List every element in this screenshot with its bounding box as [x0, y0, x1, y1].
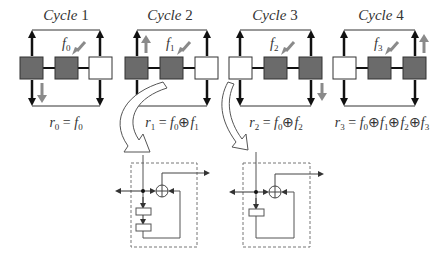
dashed-boundary	[243, 163, 310, 247]
formula-r3: r3 = f0⊕f1⊕f2⊕f3	[335, 115, 430, 132]
formula-r1: r1 = f0⊕f1	[145, 115, 199, 132]
input-label: f1	[166, 36, 174, 53]
two-register-xor-circuit	[118, 155, 207, 247]
register-box-white	[333, 57, 356, 79]
one-register-xor-circuit	[232, 152, 321, 247]
input-label: f0	[62, 36, 71, 53]
cycle-3-title: Cycle 3	[252, 7, 297, 23]
cycle-2: Cycle 2 f1 r1 = f0⊕f1	[125, 7, 218, 132]
register-box-dark	[368, 57, 391, 79]
register-2	[136, 224, 151, 231]
register-box-dark	[299, 57, 322, 79]
shift-arrowhead-icon	[317, 93, 327, 101]
register-1	[136, 208, 151, 215]
cycle-1: Cycle 1 f0 r0 = f0	[20, 7, 112, 132]
cycle-3: Cycle 3 f2 r2 = f0⊕f2	[229, 7, 327, 132]
cycle-4-title: Cycle 4	[358, 7, 404, 23]
junction-dot	[141, 189, 145, 193]
register-box-dark	[264, 57, 287, 79]
cycle-2-title: Cycle 2	[147, 7, 192, 23]
formula-r0: r0 = f0	[49, 115, 83, 132]
dashed-boundary	[131, 163, 197, 247]
shift-arrowhead-icon	[141, 35, 151, 43]
curved-arrow-icon-2	[222, 82, 248, 150]
register-box-dark	[125, 57, 148, 79]
formula-r2: r2 = f0⊕f2	[249, 115, 303, 132]
shift-arrowhead-icon	[37, 95, 47, 103]
input-label: f2	[270, 36, 278, 53]
register-box-dark	[20, 57, 43, 79]
register-box-white	[89, 57, 112, 79]
xor-output-arrow-icon	[162, 173, 207, 185]
xor-cycle-diagram: Cycle 1 f0 r0 = f0 Cycle 2	[0, 0, 448, 265]
register-box-dark	[55, 57, 78, 79]
register-box-dark	[403, 57, 426, 79]
register-box-white	[195, 57, 218, 79]
register-1	[249, 209, 264, 216]
cycle-4: Cycle 4 f3 r3 = f0⊕f1⊕f2⊕f3	[333, 7, 430, 132]
input-label: f3	[374, 36, 383, 53]
junction-dot	[254, 190, 258, 194]
shift-arrowhead-icon	[419, 34, 429, 42]
register-box-dark	[160, 57, 183, 79]
xor-output-arrow-icon	[275, 174, 321, 186]
cycle-1-title: Cycle 1	[43, 7, 88, 23]
register-box-white	[229, 57, 252, 79]
